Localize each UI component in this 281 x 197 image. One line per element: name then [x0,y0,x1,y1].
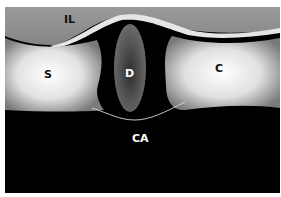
label-s: S [44,68,52,81]
label-d: D [125,67,134,80]
anatomical-diagram: IL S D C CA [0,0,281,197]
label-c: C [215,62,223,75]
label-ca: CA [132,132,149,145]
vertebral-body-s [5,38,104,112]
label-il: IL [64,13,75,26]
